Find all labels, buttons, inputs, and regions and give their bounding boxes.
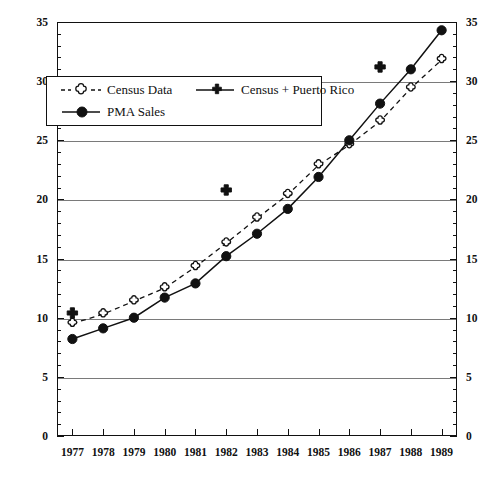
datapoint-0-1977	[68, 318, 77, 326]
datapoint-2-1978	[99, 324, 108, 333]
datapoint-1-1977	[67, 308, 77, 318]
datapoint-2-1989	[437, 26, 446, 35]
datapoint-2-1987	[375, 99, 384, 108]
datapoint-0-1984	[283, 189, 292, 197]
datapoint-1-1982	[221, 185, 231, 195]
datapoint-2-1979	[129, 313, 138, 322]
series-layer	[0, 0, 490, 477]
datapoint-2-1981	[191, 279, 200, 288]
datapoint-0-1985	[314, 160, 323, 168]
datapoint-0-1987	[376, 116, 385, 124]
datapoint-0-1979	[130, 296, 139, 304]
legend-label-census-puerto-rico: Census + Puerto Rico	[241, 82, 354, 98]
datapoint-1-1987	[375, 62, 385, 72]
datapoint-0-1983	[253, 213, 262, 221]
datapoint-2-1985	[314, 172, 323, 181]
datapoint-2-1982	[222, 252, 231, 261]
legend-marker-filled-cross-icon	[193, 82, 237, 98]
datapoint-2-1977	[68, 334, 77, 343]
datapoint-0-1988	[407, 83, 416, 91]
datapoint-2-1984	[283, 204, 292, 213]
legend-entry-census-data: Census Data	[59, 82, 172, 98]
datapoint-0-1989	[437, 54, 446, 62]
series-pma-sales	[68, 26, 446, 344]
datapoint-2-1986	[345, 136, 354, 145]
chart-legend: Census Data Census + Puerto Rico PMA Sal…	[46, 76, 322, 126]
legend-marker-filled-circle-icon	[59, 104, 103, 120]
legend-label-pma-sales: PMA Sales	[107, 104, 165, 120]
legend-label-census-data: Census Data	[107, 82, 172, 98]
legend-entry-pma-sales: PMA Sales	[59, 104, 165, 120]
legend-marker-open-cross-icon	[59, 82, 103, 98]
datapoint-2-1988	[406, 65, 415, 74]
legend-entry-census-puerto-rico: Census + Puerto Rico	[193, 82, 354, 98]
datapoint-0-1980	[160, 283, 169, 291]
datapoint-0-1981	[191, 261, 200, 269]
datapoint-2-1983	[252, 229, 261, 238]
chart-container: 0055101015152020252530303535197719781979…	[0, 0, 490, 477]
datapoint-2-1980	[160, 293, 169, 302]
